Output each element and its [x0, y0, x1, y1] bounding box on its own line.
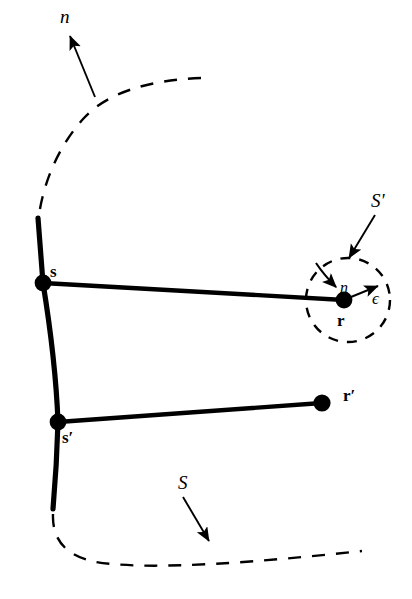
- label-normal-outer: n: [60, 7, 70, 26]
- ray-sprime-to-rprime: [58, 403, 322, 422]
- label-source-point-sprime: s′: [62, 429, 73, 446]
- label-field-point-rprime: r′: [343, 387, 355, 404]
- diagram-vector-layer: [0, 0, 412, 599]
- surface-label-leader-arrow: [183, 497, 209, 541]
- normal-outer-arrow: [70, 36, 95, 97]
- surface-contour-top-dashed: [39, 78, 201, 215]
- diagram-canvas: n n S' ϵ s s′ r r′ S: [0, 0, 412, 599]
- label-source-point-s: s: [50, 263, 57, 280]
- label-normal-inner: n: [340, 280, 348, 296]
- point-marker-s: [35, 275, 52, 292]
- sphere-label-leader-arrow: [349, 215, 375, 258]
- label-epsilon: ϵ: [372, 290, 379, 307]
- label-field-point-r: r: [337, 312, 345, 329]
- point-marker-rprime: [313, 394, 330, 411]
- normal-inner-arrow: [316, 263, 336, 287]
- label-surface-sphere: S': [371, 191, 385, 210]
- label-surface-outer: S: [178, 473, 188, 492]
- ray-s-to-r: [43, 283, 344, 300]
